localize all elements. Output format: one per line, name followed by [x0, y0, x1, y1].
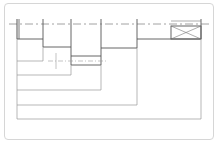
shaft-diagram — [0, 0, 218, 145]
dimension-lines — [17, 39, 201, 119]
